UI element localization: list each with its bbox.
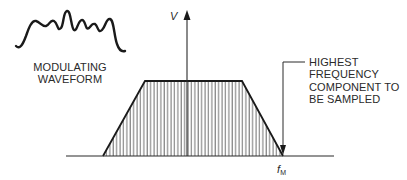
waveform-label-line-1: MODULATING	[24, 61, 116, 73]
waveform-label: MODULATING WAVEFORM	[24, 61, 116, 85]
y-axis-label: V	[170, 10, 177, 22]
waveform-label-line-2: WAVEFORM	[24, 73, 116, 85]
annotation-line-2: FREQUENCY	[309, 68, 399, 80]
annotation-line-3: COMPONENT TO	[309, 81, 399, 93]
annotation-leader-line	[283, 62, 305, 146]
spectrum-trapezoid	[103, 81, 283, 156]
highest-frequency-annotation: HIGHEST FREQUENCY COMPONENT TO BE SAMPLE…	[309, 56, 399, 105]
fm-subscript: M	[280, 169, 286, 176]
v-axis-arrow-icon	[184, 10, 191, 20]
annotation-line-4: BE SAMPLED	[309, 93, 399, 105]
fm-marker-label: fM	[277, 163, 286, 179]
modulating-waveform-curve	[16, 11, 125, 51]
annotation-line-1: HIGHEST	[309, 56, 399, 68]
